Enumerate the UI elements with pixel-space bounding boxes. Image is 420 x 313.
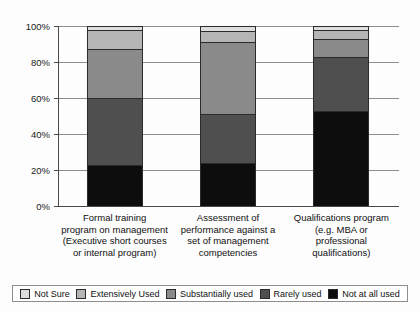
y-axis-tick bbox=[54, 206, 59, 207]
category-label-line: competencies bbox=[165, 247, 291, 259]
bar-segment bbox=[200, 42, 256, 114]
y-axis-tick-label: 80% bbox=[0, 57, 50, 68]
bar-segment bbox=[87, 49, 143, 98]
legend-item[interactable]: Not at all used bbox=[328, 289, 400, 299]
y-axis-tick-label: 0% bbox=[0, 201, 50, 212]
y-axis-tick bbox=[54, 98, 59, 99]
y-axis-tick-label: 40% bbox=[0, 129, 50, 140]
legend-label: Not at all used bbox=[342, 289, 400, 299]
y-axis-tick bbox=[54, 134, 59, 135]
category-label-line: qualifications) bbox=[278, 247, 404, 259]
category-label: Qualifications program(e.g. MBA orprofes… bbox=[278, 212, 404, 258]
category-label-line: (Executive short courses bbox=[52, 235, 178, 247]
legend-label: Extensively Used bbox=[90, 289, 159, 299]
category-label-line: set of management bbox=[165, 235, 291, 247]
y-axis-tick-label: 60% bbox=[0, 93, 50, 104]
category-label-line: or internal program) bbox=[52, 247, 178, 259]
bar-segment bbox=[313, 39, 369, 57]
bar-segment bbox=[200, 163, 256, 206]
y-axis-tick bbox=[54, 62, 59, 63]
stacked-bar bbox=[200, 26, 256, 206]
category-label-line: (e.g. MBA or bbox=[278, 224, 404, 236]
category-label-line: Formal training bbox=[52, 212, 178, 224]
legend-label: Substantially used bbox=[180, 289, 253, 299]
bar-segment bbox=[313, 57, 369, 111]
category-label-line: professional bbox=[278, 235, 404, 247]
legend-swatch-icon bbox=[328, 289, 338, 299]
legend-swatch-icon bbox=[20, 289, 30, 299]
category-label-line: Qualifications program bbox=[278, 212, 404, 224]
y-axis-tick bbox=[54, 170, 59, 171]
legend-label: Rarely used bbox=[274, 289, 322, 299]
bar-segment bbox=[87, 30, 143, 50]
category-label-line: Assessment of bbox=[165, 212, 291, 224]
legend-item[interactable]: Rarely used bbox=[260, 289, 322, 299]
y-axis-tick bbox=[54, 26, 59, 27]
bar-segment bbox=[313, 111, 369, 206]
y-axis-tick-label: 20% bbox=[0, 165, 50, 176]
stacked-bar bbox=[87, 26, 143, 206]
legend-swatch-icon bbox=[76, 289, 86, 299]
legend-swatch-icon bbox=[166, 289, 176, 299]
category-label-line: program on management bbox=[52, 224, 178, 236]
legend-swatch-icon bbox=[260, 289, 270, 299]
bar-segment bbox=[200, 31, 256, 42]
chart-legend: Not SureExtensively UsedSubstantially us… bbox=[12, 285, 408, 302]
category-label: Formal trainingprogram on management(Exe… bbox=[52, 212, 178, 258]
category-label: Assessment ofperformance against aset of… bbox=[165, 212, 291, 258]
bar-segment bbox=[87, 98, 143, 165]
bar-segment bbox=[87, 165, 143, 206]
legend-item[interactable]: Not Sure bbox=[20, 289, 70, 299]
category-label-line: performance against a bbox=[165, 224, 291, 236]
stacked-bar bbox=[313, 26, 369, 206]
bar-segment bbox=[313, 30, 369, 39]
legend-item[interactable]: Substantially used bbox=[166, 289, 253, 299]
bar-segment bbox=[200, 114, 256, 163]
legend-item[interactable]: Extensively Used bbox=[76, 289, 159, 299]
y-axis-tick-label: 100% bbox=[0, 21, 50, 32]
legend-label: Not Sure bbox=[34, 289, 70, 299]
stacked-bar-chart: 0%20%40%60%80%100% Formal trainingprogra… bbox=[0, 0, 420, 313]
